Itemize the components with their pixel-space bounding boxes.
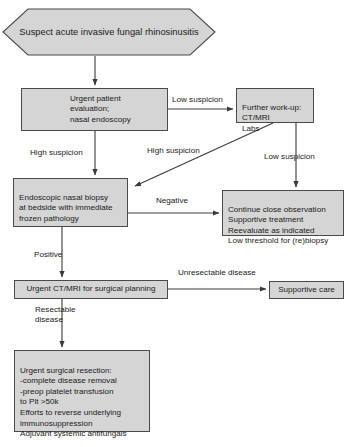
node-workup[interactable]: Further work-up: CT/MRI Labs [236,88,314,123]
node-supportive-label: Supportive care [278,285,335,296]
node-resection[interactable]: Urgent surgical resection: -complete dis… [14,350,150,432]
edge-label-high-suspicion-workup: High suspicion [147,146,200,156]
node-biopsy[interactable]: Endoscopic nasal biopsy at bedside with … [13,178,128,227]
node-resection-label: Urgent surgical resection: -complete dis… [20,366,127,439]
edge-label-resectable-disease: Resectable disease [35,305,76,326]
node-imaging[interactable]: Urgent CT/MRI for surgical planning [14,280,168,299]
node-biopsy-label: Endoscopic nasal biopsy at bedside with … [19,193,113,223]
edge-label-unresectable-disease: Unresectable disease [178,268,256,278]
node-evaluation-label: Urgent patient evaluation; nasal endosco… [70,94,162,126]
node-observation[interactable]: Continue close observation Supportive tr… [222,190,344,236]
node-evaluation[interactable]: Urgent patient evaluation; nasal endosco… [21,88,168,131]
node-observation-label: Continue close observation Supportive tr… [228,205,328,246]
node-suspect-label: Suspect acute invasive fungal rhinosinus… [19,27,198,37]
node-imaging-label: Urgent CT/MRI for surgical planning [26,284,155,295]
node-suspect[interactable]: Suspect acute invasive fungal rhinosinus… [2,8,216,56]
edge-label-low-suspicion-workup: Low suspicion [172,95,223,105]
edge-label-positive: Positive [34,250,62,260]
flowchart-canvas: Suspect acute invasive fungal rhinosinus… [0,0,349,447]
node-workup-label: Further work-up: CT/MRI Labs [242,103,301,133]
edge-label-low-suspicion-observation: Low suspicion [264,152,315,162]
edge-label-high-suspicion-biopsy: High suspicion [30,148,83,158]
edge-label-negative: Negative [156,196,188,206]
node-supportive[interactable]: Supportive care [269,281,344,299]
